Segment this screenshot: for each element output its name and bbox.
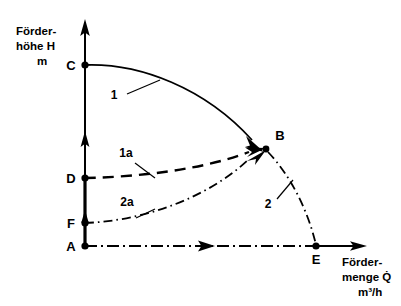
point-label-D: D [66,171,75,186]
curve-2a-label: 2a [120,195,134,209]
curve-1a-group: 1a [85,146,266,178]
x-axis-title-unit: m³/h [358,286,382,298]
x-axis-title-line1: Förder- [342,256,382,268]
curve-2a-group: 2a [85,150,266,223]
y-axis-title-line2: höhe H [16,40,55,52]
point-marker-E [312,242,319,249]
x-axis-title-line2: menge Q̇ [342,271,391,283]
point-marker-D [81,174,88,181]
point-label-E: E [312,252,321,267]
point-label-A: A [66,239,76,254]
y-axis-title-unit: m [37,55,47,67]
curve-2-label: 2 [265,197,272,211]
curve-2a-leader-line [136,209,155,218]
curve-2-group: 2 [265,152,316,245]
curve-1-label: 1 [111,88,118,102]
point-marker-B [263,146,270,153]
curve-1a-path [85,152,249,178]
curve-1-leader-line [127,80,160,94]
curve-1a-leader-line [135,163,155,178]
point-marker-A [81,242,88,249]
curve-1-path [85,65,252,140]
curve-2-path [268,152,316,245]
point-labels-group: C B D F A E [66,58,320,267]
point-label-C: C [66,58,76,73]
point-marker-F [81,219,88,226]
curve-2a-path [85,160,248,223]
point-label-F: F [67,216,75,231]
y-axis-group [80,19,90,246]
curve-1a-label: 1a [119,146,133,160]
point-label-B: B [275,128,284,143]
pump-characteristic-diagram: 1 1a 2a 2 C B D F A E Förder- [0,0,401,306]
x-axis-group [85,241,367,252]
y-axis-title-line1: Förder- [16,25,56,37]
chart-canvas: 1 1a 2a 2 C B D F A E Förder- [0,0,401,306]
curve-1-group: 1 [85,65,264,152]
curve-2-leader-line [277,180,293,199]
x-axis-title-group: Förder- menge Q̇ m³/h [342,256,391,298]
y-axis-title-group: Förder- höhe H m [16,25,56,67]
point-marker-C [81,61,88,68]
